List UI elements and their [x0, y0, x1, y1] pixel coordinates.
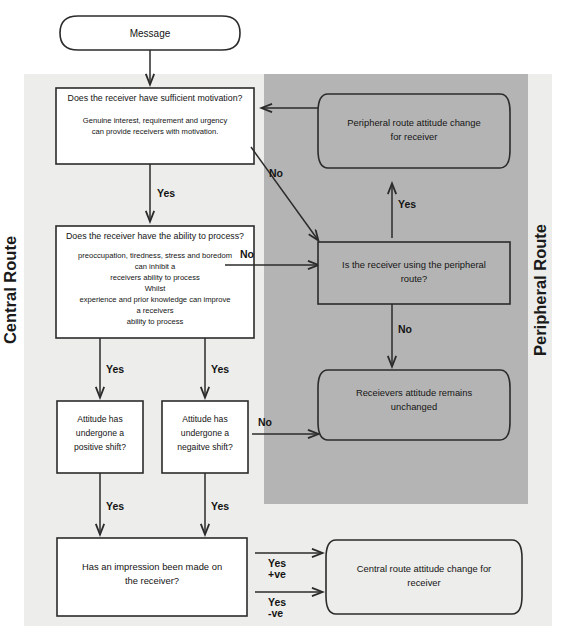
node-positive-shift-line-2: undergone a: [76, 428, 124, 438]
edge-label-ability-no: No: [240, 248, 254, 260]
flowchart-svg: Central Route Peripheral Route Message D…: [0, 0, 579, 639]
node-negative-shift-line-1: Attitude has: [182, 414, 227, 424]
node-ability-heading: Does the receiver have the ability to pr…: [66, 231, 244, 241]
node-peripheral-question-line-1: Is the receiver using the peripheral: [342, 259, 486, 270]
node-ability-body-2: can inhibit a: [135, 262, 176, 271]
node-ability-body-3: receivers ability to process: [110, 273, 200, 282]
side-label-central: Central Route: [1, 236, 19, 344]
node-ability-body-7: ability to process: [127, 317, 184, 326]
node-impression-line-2: the receiver?: [125, 575, 179, 586]
node-unchanged-line-2: unchanged: [391, 401, 437, 412]
edge-label-negative-yes: Yes: [211, 500, 229, 512]
node-central-change-line-1: Central route attitude change for: [357, 563, 491, 574]
node-motivation-body-2: can provide receivers with motivation.: [92, 127, 219, 136]
edge-label-ability-yes-right: Yes: [211, 363, 229, 375]
node-unchanged-line-1: Receievers attitude remains: [356, 387, 473, 398]
node-positive-shift-line-1: Attitude has: [77, 414, 122, 424]
node-peripheral-change-line-1: Peripheral route attitude change: [347, 117, 480, 128]
side-label-peripheral: Peripheral Route: [531, 224, 549, 356]
edge-label-peripheral-yes: Yes: [398, 198, 416, 210]
edge-label-impression-yes-neg-2: -ve: [268, 607, 283, 619]
edge-label-motivation-yes: Yes: [157, 187, 175, 199]
edge-label-peripheral-no: No: [398, 323, 412, 335]
node-ability-body-6: a receivers: [136, 306, 173, 315]
node-peripheral-question-line-2: route?: [401, 273, 428, 284]
edge-label-impression-yes-pos-2: +ve: [268, 568, 286, 580]
node-negative-shift-line-2: undergone a: [181, 428, 229, 438]
edge-label-positive-yes: Yes: [106, 500, 124, 512]
node-message-label: Message: [130, 28, 171, 39]
node-impression-line-1: Has an impression been made on: [82, 561, 222, 572]
node-positive-shift-line-3: positive shift?: [74, 442, 126, 452]
node-motivation-body-1: Genuine interest, requirement and urgenc…: [83, 116, 228, 125]
edge-label-motivation-no: No: [269, 167, 283, 179]
node-negative-shift-line-3: negaitve shift?: [177, 442, 233, 452]
edge-label-ability-yes-left: Yes: [106, 363, 124, 375]
node-ability-body-5: experience and prior knowledge can impro…: [79, 295, 230, 304]
edge-label-negative-no: No: [258, 416, 272, 428]
node-peripheral-change-line-2: for receiver: [391, 131, 438, 142]
flowchart-canvas: Central Route Peripheral Route Message D…: [0, 0, 579, 639]
node-central-change-line-2: receiver: [407, 577, 440, 588]
node-ability-body-1: preoccupation, tiredness, stress and bor…: [78, 251, 232, 260]
node-ability-body-4: Whilst: [145, 284, 167, 293]
node-motivation-heading: Does the receiver have sufficient motiva…: [68, 93, 243, 103]
